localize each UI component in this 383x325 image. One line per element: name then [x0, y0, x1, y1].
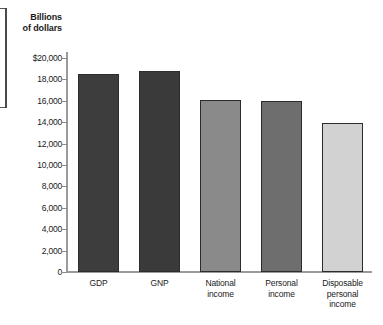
x-axis-label: Nationalincome [190, 278, 251, 299]
y-axis-tick-label: 10,000 [0, 161, 62, 170]
x-axis-label-line: GNP [129, 278, 190, 289]
x-axis-label: GDP [68, 278, 129, 289]
bar [261, 101, 302, 272]
y-axis-tick-label: 12,000 [0, 139, 62, 148]
x-axis-label-line: personal [312, 289, 373, 300]
y-axis-title: Billions of dollars [8, 12, 62, 34]
y-axis-tick-label: 2,000 [0, 246, 62, 255]
y-axis-title-line-1: Billions [8, 12, 62, 23]
x-axis-label-line: Disposable [312, 278, 373, 289]
y-axis-tick-mark [61, 208, 67, 209]
x-axis-label: Personalincome [251, 278, 312, 299]
x-axis-label-line: income [251, 289, 312, 300]
y-axis-tick-mark [61, 251, 67, 252]
bar [322, 123, 363, 272]
y-axis-title-line-2: of dollars [8, 23, 62, 34]
x-axis-label: GNP [129, 278, 190, 289]
y-axis-tick-mark [61, 165, 67, 166]
y-axis-tick-label: 18,000 [0, 75, 62, 84]
y-axis-tick-label: 0 [0, 268, 62, 277]
y-axis-tick-label: 4,000 [0, 225, 62, 234]
y-axis-tick-label: 14,000 [0, 118, 62, 127]
y-axis-tick-mark [61, 101, 67, 102]
bar-chart: Billions of dollars $20,00018,00016,0001… [0, 0, 383, 325]
x-axis-label-line: GDP [68, 278, 129, 289]
x-axis-label-line: Personal [251, 278, 312, 289]
bar [78, 74, 119, 272]
y-axis-tick-mark [61, 186, 67, 187]
bar [200, 100, 241, 272]
x-axis-label-line: National [190, 278, 251, 289]
y-axis-tick-label: $20,000 [0, 54, 62, 63]
x-axis-label: Disposablepersonalincome [312, 278, 373, 310]
y-axis-tick-mark [61, 144, 67, 145]
y-axis-line [66, 52, 68, 273]
x-axis-label-line: income [312, 299, 373, 310]
y-axis-tick-mark [61, 229, 67, 230]
y-axis-tick-mark [61, 122, 67, 123]
x-axis-label-line: income [190, 289, 251, 300]
y-axis-tick-label: 16,000 [0, 96, 62, 105]
bar [139, 71, 180, 272]
y-axis-tick-mark [61, 79, 67, 80]
y-axis-tick-label: 6,000 [0, 203, 62, 212]
y-axis-tick-mark [61, 58, 67, 59]
y-axis-tick-label: 8,000 [0, 182, 62, 191]
y-axis-tick-mark [61, 272, 67, 273]
